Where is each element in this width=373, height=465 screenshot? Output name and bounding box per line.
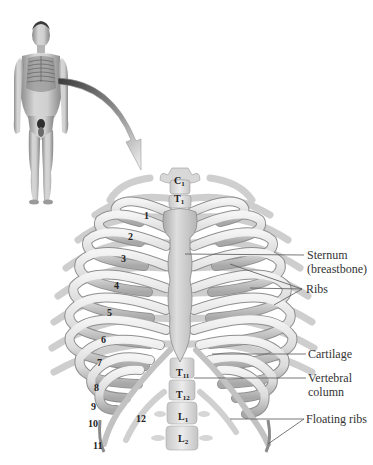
label-ribs: Ribs — [306, 282, 328, 296]
vertebra-letter: T — [176, 389, 183, 400]
label-line: Sternum — [307, 248, 367, 262]
vertebra-label-t11: T11 — [176, 368, 189, 381]
rib-number-12: 12 — [136, 414, 146, 424]
vertebra-sub: 11 — [183, 372, 190, 380]
label-line: Cartilage — [308, 347, 352, 361]
vertebra-letter: L — [178, 433, 185, 444]
vertebra-label-l1: L1 — [178, 412, 188, 425]
vertebra-label-t1: T1 — [174, 194, 184, 207]
rib-number-9: 9 — [91, 402, 96, 412]
rib-number-5: 5 — [107, 308, 112, 318]
vertebra-label-c1: C1 — [174, 176, 185, 189]
label-sternum: Sternum (breastbone) — [307, 248, 367, 276]
rib-number-7: 7 — [97, 358, 102, 368]
label-floating-ribs: Floating ribs — [306, 412, 367, 426]
vertebra-letter: T — [174, 193, 181, 204]
rib-number-11: 11 — [93, 441, 102, 451]
vertebra-sub: 1 — [185, 416, 189, 424]
zoom-arrow — [58, 78, 141, 170]
vertebra-sub: 1 — [181, 180, 185, 188]
rib-number-3: 3 — [121, 254, 126, 264]
vertebra-letter: T — [176, 367, 183, 378]
label-cartilage: Cartilage — [308, 347, 352, 361]
label-line: Ribs — [306, 282, 328, 296]
vertebra-letter: L — [178, 411, 185, 422]
vertebra-label-l2: L2 — [178, 434, 188, 447]
rib-number-4: 4 — [114, 281, 119, 291]
human-figure-inset — [14, 21, 69, 205]
rib-number-10: 10 — [88, 419, 98, 429]
rib-number-2: 2 — [128, 232, 133, 242]
rib-number-6: 6 — [101, 335, 106, 345]
label-vertebral-column: Vertebral column — [308, 371, 352, 399]
label-line: Floating ribs — [306, 412, 367, 426]
vertebra-label-t12: T12 — [176, 390, 190, 403]
label-line: (breastbone) — [307, 262, 367, 276]
label-line: column — [308, 385, 352, 399]
rib-cage-diagram: C1 T1 T11 T12 L1 L2 1 2 3 4 5 6 7 8 9 10… — [0, 0, 373, 465]
label-line: Vertebral — [308, 371, 352, 385]
vertebra-sub: 2 — [185, 438, 189, 446]
rib-number-1: 1 — [144, 211, 149, 221]
vertebra-sub: 1 — [181, 198, 185, 206]
vertebra-sub: 12 — [183, 394, 190, 402]
rib-number-8: 8 — [94, 383, 99, 393]
